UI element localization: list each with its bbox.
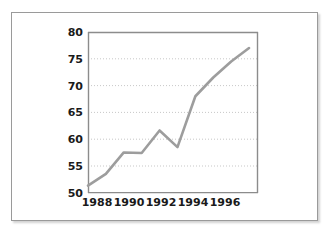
y-tick-label-65: 65 — [68, 106, 83, 119]
y-tick-label-80: 80 — [68, 26, 84, 39]
x-tick-label-1994: 1994 — [178, 196, 209, 209]
x-axis-tick-labels: 1988 1990 1992 1994 1996 — [82, 196, 241, 209]
chart-figure: 80 75 70 65 60 55 50 1988 1990 1992 1994… — [0, 0, 331, 235]
y-tick-label-55: 55 — [68, 160, 83, 173]
y-axis-tick-labels: 80 75 70 65 60 55 50 — [68, 26, 84, 200]
y-tick-label-75: 75 — [68, 53, 83, 66]
x-tick-label-1990: 1990 — [114, 196, 145, 209]
x-tick-label-1992: 1992 — [146, 196, 177, 209]
y-tick-label-60: 60 — [68, 133, 84, 146]
x-tick-label-1996: 1996 — [210, 196, 241, 209]
y-tick-label-70: 70 — [68, 80, 84, 93]
x-tick-label-1988: 1988 — [82, 196, 113, 209]
line-chart: 80 75 70 65 60 55 50 1988 1990 1992 1994… — [0, 0, 331, 235]
